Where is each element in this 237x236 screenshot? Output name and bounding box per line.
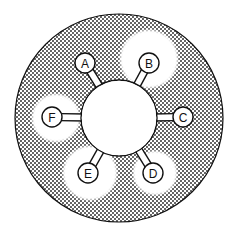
node-e: E [78,163,98,183]
node-label: A [81,57,89,71]
hub-spoke-diagram: ABCDEF [0,0,237,236]
node-label: D [149,167,158,181]
hub-interior [82,81,156,155]
node-label: F [48,111,55,125]
node-d: D [143,163,163,183]
node-b: B [139,53,159,73]
node-label: E [84,167,92,181]
node-label: B [145,57,153,71]
node-f: F [42,107,62,127]
node-label: C [179,111,188,125]
hub-group [81,80,157,156]
node-a: A [75,53,95,73]
diagram-canvas: ABCDEF [0,0,237,236]
node-c: C [173,107,193,127]
